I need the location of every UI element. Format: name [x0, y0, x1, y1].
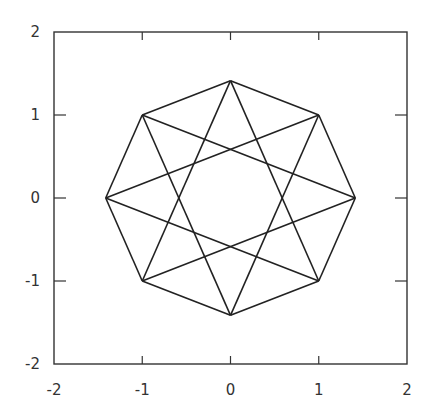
y-tick-label: -1: [25, 272, 40, 290]
star-8-3-segment: [106, 198, 319, 281]
x-tick-label: -1: [135, 381, 150, 399]
x-tick-label: 1: [314, 381, 324, 399]
star-8-3-segment: [142, 198, 355, 281]
x-tick-label: 0: [226, 381, 236, 399]
star-8-3-segment: [142, 115, 355, 198]
star-octagon-figure: [106, 81, 356, 316]
y-tick-label: 2: [30, 23, 40, 41]
x-tick-label: 2: [402, 381, 412, 399]
y-tick-label: 0: [30, 189, 40, 207]
x-tick-label: -2: [47, 381, 62, 399]
tick-labels: -2-1012-2-1012: [25, 23, 412, 399]
y-tick-label: -2: [25, 355, 40, 373]
y-tick-label: 1: [30, 106, 40, 124]
plot-canvas: -2-1012-2-1012: [0, 0, 432, 414]
star-8-3-segment: [106, 115, 319, 198]
